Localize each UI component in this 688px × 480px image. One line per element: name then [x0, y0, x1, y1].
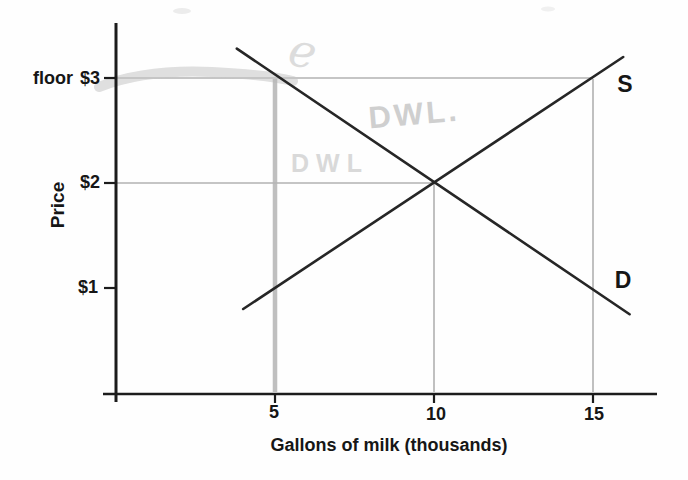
price-1-tick-label: $1: [78, 278, 98, 296]
floor-annotation-label: floor: [33, 69, 73, 87]
supply-demand-diagram: floor $3 $2 $1 Price 5 10 15 Gallons of …: [0, 0, 688, 480]
demand-curve-label: D: [615, 269, 632, 292]
y-axis-title: Price: [48, 182, 67, 228]
handwritten-dwl-upper-annotation: DWL.: [367, 95, 461, 134]
curves: [237, 49, 630, 315]
qty-15-tick-label: 15: [584, 405, 604, 423]
qty-10-tick-label: 10: [426, 405, 446, 423]
price-2-tick-label: $2: [80, 173, 100, 191]
supply-curve-label: S: [617, 73, 632, 96]
qty-5-tick-label: 5: [269, 403, 279, 421]
price-3-tick-label: $3: [80, 69, 100, 87]
handwritten-dwl-lower-annotation: DWL: [291, 151, 369, 176]
scan-smudge: [173, 8, 191, 14]
floor-highlighter-swoosh: [99, 72, 293, 87]
price-floor-row: floor $3: [33, 69, 100, 87]
x-axis-title: Gallons of milk (thousands): [270, 436, 507, 454]
scan-smudge: [541, 7, 555, 12]
axes: [103, 23, 657, 402]
